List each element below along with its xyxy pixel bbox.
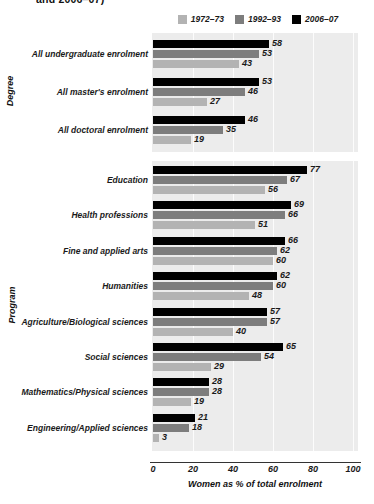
x-axis-tick-label: 60 [268, 464, 278, 474]
category-label-row: Social sciences [0, 352, 150, 362]
legend-swatch-icon [292, 15, 301, 24]
bar-value-label: 21 [198, 412, 208, 422]
bar-value-label: 53 [262, 76, 272, 86]
bar-row: 21 [152, 413, 358, 423]
category-label-row: Engineering/Applied sciences [0, 423, 150, 433]
x-axis-tick-label: 100 [345, 464, 360, 474]
bar [153, 126, 223, 134]
bar-group: 626048 [152, 271, 358, 301]
bar [153, 136, 191, 144]
bar-row: 28 [152, 377, 358, 387]
chart-title-clipped: and 2006–07) [36, 0, 336, 7]
bar-value-label: 3 [162, 432, 167, 442]
bar-row: 51 [152, 220, 358, 230]
bar [153, 434, 159, 442]
bar-row: 60 [152, 256, 358, 266]
bar [153, 237, 285, 245]
category-label-row: Education [0, 175, 150, 185]
legend-label: 1972–73 [191, 14, 224, 24]
panel-program: 7767566966516662606260485757406554292828… [152, 161, 358, 451]
bar-value-label: 60 [276, 280, 286, 290]
bar-group: 666260 [152, 236, 358, 266]
bar [153, 88, 245, 96]
category-label: Health professions [0, 210, 148, 220]
bar [153, 247, 277, 255]
bar [153, 343, 283, 351]
bar-group: 696651 [152, 200, 358, 230]
bar [153, 363, 211, 371]
bar-row: 53 [152, 49, 358, 59]
bar-group: 282819 [152, 377, 358, 407]
bar-group: 585343 [152, 39, 358, 69]
chart-legend: 1972–731992–932006–07 [152, 12, 364, 26]
bar-group: 655429 [152, 342, 358, 372]
bar-value-label: 57 [270, 306, 280, 316]
bar-row: 48 [152, 291, 358, 301]
bar [153, 282, 273, 290]
bar-value-label: 43 [242, 58, 252, 68]
bar [153, 186, 265, 194]
bar-row: 67 [152, 175, 358, 185]
bar-row: 66 [152, 210, 358, 220]
category-label: Humanities [0, 281, 148, 291]
bar [153, 60, 239, 68]
bar [153, 398, 191, 406]
bar-row: 46 [152, 115, 358, 125]
category-label: Social sciences [0, 352, 148, 362]
bar [153, 328, 233, 336]
bar-value-label: 48 [252, 290, 262, 300]
bar [153, 388, 209, 396]
bar-row: 19 [152, 397, 358, 407]
legend-label: 2006–07 [305, 14, 338, 24]
bar-value-label: 28 [212, 376, 222, 386]
bar-value-label: 66 [288, 235, 298, 245]
bar [153, 257, 273, 265]
bar-row: 18 [152, 423, 358, 433]
legend-label: 1992–93 [248, 14, 281, 24]
x-axis-tick-label: 40 [228, 464, 238, 474]
bar-row: 62 [152, 271, 358, 281]
category-label: Fine and applied arts [0, 246, 148, 256]
bar [153, 308, 267, 316]
bar-value-label: 69 [294, 199, 304, 209]
bar [153, 98, 207, 106]
bar-group: 776756 [152, 165, 358, 195]
bar-group: 575740 [152, 307, 358, 337]
bar-value-label: 54 [264, 351, 274, 361]
category-label: All doctoral enrolment [0, 125, 148, 135]
bar [153, 272, 277, 280]
bar-row: 35 [152, 125, 358, 135]
bar [153, 176, 287, 184]
bar-value-label: 60 [276, 255, 286, 265]
bar-row: 65 [152, 342, 358, 352]
bar-value-label: 53 [262, 48, 272, 58]
legend-swatch-icon [235, 15, 244, 24]
bar-value-label: 77 [310, 164, 320, 174]
bar-row: 77 [152, 165, 358, 175]
bar [153, 78, 259, 86]
category-label-row: Fine and applied arts [0, 246, 150, 256]
bar [153, 221, 255, 229]
bar-row: 56 [152, 185, 358, 195]
bar [153, 211, 285, 219]
bar-row: 58 [152, 39, 358, 49]
category-label-row: All doctoral enrolment [0, 125, 150, 135]
bar [153, 378, 209, 386]
bar-row: 19 [152, 135, 358, 145]
x-axis-tick-label: 80 [308, 464, 318, 474]
bar-value-label: 46 [248, 86, 258, 96]
bar-value-label: 51 [258, 219, 268, 229]
bar-row: 28 [152, 387, 358, 397]
bar-value-label: 29 [214, 361, 224, 371]
bar-value-label: 19 [194, 396, 204, 406]
panel-degree: 585343534627463519 [152, 33, 358, 152]
bar-row: 43 [152, 59, 358, 69]
bar [153, 292, 249, 300]
legend-item: 2006–07 [292, 14, 338, 24]
bar-value-label: 62 [280, 245, 290, 255]
bar-value-label: 58 [272, 38, 282, 48]
legend-item: 1992–93 [235, 14, 281, 24]
x-axis-tick-label: 0 [150, 464, 155, 474]
bar-value-label: 28 [212, 386, 222, 396]
bar [153, 318, 267, 326]
